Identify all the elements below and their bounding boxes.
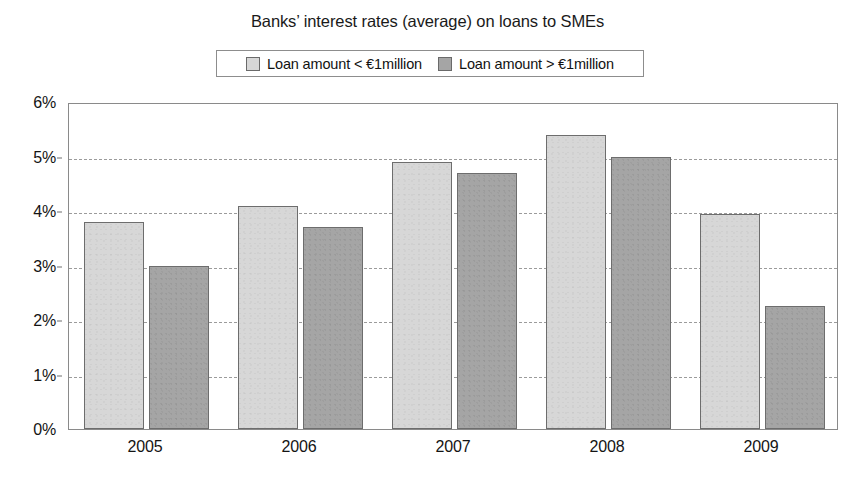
plot-area [68, 103, 838, 430]
legend-label-loan-over-1m: Loan amount > €1million [459, 56, 614, 72]
bar-2005-series1 [84, 222, 144, 429]
legend-entry-loan-under-1m[interactable]: Loan amount < €1million [246, 56, 422, 72]
y-axis-tick-label: 5% [33, 149, 56, 167]
legend-swatch-icon-dark [438, 57, 452, 71]
legend-swatch-icon-light [246, 57, 260, 71]
y-axis-tick-mark [57, 321, 62, 322]
x-axis-tick-label-2008: 2008 [590, 438, 625, 456]
y-axis-tick-mark [57, 266, 62, 267]
bar-2007-series1 [392, 162, 452, 429]
y-axis-tick-label: 6% [33, 94, 56, 112]
x-axis-tick-label-2006: 2006 [282, 438, 317, 456]
x-axis-tick-label-2005: 2005 [128, 438, 163, 456]
y-axis-tick-mark [57, 157, 62, 158]
y-axis-tick-mark [57, 375, 62, 376]
bar-2006-series2 [303, 227, 363, 429]
y-axis-tick-label: 0% [33, 421, 56, 439]
y-axis-tick-label: 3% [33, 258, 56, 276]
chart-title: Banks’ interest rates (average) on loans… [0, 12, 855, 31]
bar-2009-series1 [700, 214, 760, 429]
bar-2005-series2 [149, 266, 209, 430]
x-axis: 20052006200720082009 [68, 432, 838, 472]
bar-2007-series2 [457, 173, 517, 429]
y-axis-tick-label: 2% [33, 312, 56, 330]
chart-legend: Loan amount < €1million Loan amount > €1… [216, 50, 644, 77]
bar-2006-series1 [238, 206, 298, 429]
y-axis-tick-label: 4% [33, 203, 56, 221]
legend-entry-loan-over-1m[interactable]: Loan amount > €1million [438, 56, 614, 72]
bar-2009-series2 [765, 306, 825, 429]
bar-2008-series2 [611, 157, 671, 430]
y-axis-tick-label: 1% [33, 367, 56, 385]
y-axis-tick-mark [57, 212, 62, 213]
x-axis-tick-label-2007: 2007 [436, 438, 471, 456]
y-axis: 0%1%2%3%4%5%6% [0, 103, 62, 430]
bar-2008-series1 [546, 135, 606, 429]
bar-chart: Banks’ interest rates (average) on loans… [0, 0, 855, 479]
legend-label-loan-under-1m: Loan amount < €1million [267, 56, 422, 72]
x-axis-tick-label-2009: 2009 [744, 438, 779, 456]
bars-layer [69, 104, 837, 429]
